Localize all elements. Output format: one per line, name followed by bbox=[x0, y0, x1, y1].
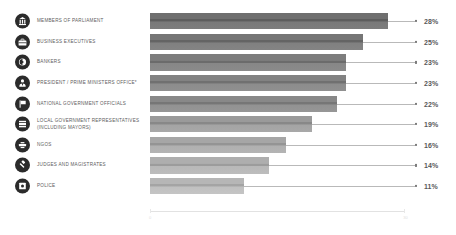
chart-row: POLICE 11% bbox=[0, 176, 456, 197]
leader-line bbox=[388, 21, 415, 22]
leader-dot bbox=[415, 82, 417, 84]
leader-dot bbox=[415, 164, 417, 166]
value-label: 22% bbox=[424, 100, 438, 107]
chart-row: NGOs 16% bbox=[0, 135, 456, 156]
category-label: PRESIDENT / PRIME MINISTERS OFFICE* bbox=[37, 80, 143, 86]
x-axis: 0 30 bbox=[150, 211, 405, 212]
bank-coin-icon bbox=[15, 55, 30, 70]
row-icon-cell bbox=[15, 117, 30, 132]
row-icon-cell bbox=[15, 179, 30, 194]
gavel-icon bbox=[15, 158, 30, 173]
leader-dot bbox=[415, 20, 417, 22]
briefcase-icon bbox=[15, 34, 30, 49]
bar-track bbox=[150, 11, 456, 32]
police-badge-icon bbox=[15, 179, 30, 194]
leader-line bbox=[363, 42, 416, 43]
bar-track bbox=[150, 135, 456, 156]
value-label: 11% bbox=[424, 183, 438, 190]
bar-track bbox=[150, 32, 456, 53]
leader-line bbox=[269, 165, 415, 166]
handshake-icon bbox=[15, 137, 30, 152]
leader-line bbox=[312, 124, 416, 125]
category-label: JUDGES AND MAGISTRATES bbox=[37, 162, 143, 168]
horizontal-bar-chart: MEMBERS OF PARLIAMENT 28% BUSINESS EXE bbox=[0, 0, 456, 235]
row-icon-cell bbox=[15, 34, 30, 49]
category-label: POLICE bbox=[37, 183, 143, 189]
bar bbox=[150, 34, 363, 50]
category-label: NATIONAL GOVERNMENT OFFICIALS bbox=[37, 100, 143, 106]
category-label: BANKERS bbox=[37, 59, 143, 65]
axis-tick-min bbox=[150, 209, 151, 213]
flag-icon bbox=[15, 96, 30, 111]
value-label: 19% bbox=[424, 121, 438, 128]
row-icon-cell bbox=[15, 96, 30, 111]
leader-dot bbox=[415, 123, 417, 125]
bar-track bbox=[150, 93, 456, 114]
leader-dot bbox=[415, 185, 417, 187]
chart-row: MEMBERS OF PARLIAMENT 28% bbox=[0, 11, 456, 32]
chart-row: PRESIDENT / PRIME MINISTERS OFFICE* 23% bbox=[0, 73, 456, 94]
axis-label-min: 0 bbox=[149, 215, 151, 220]
chart-row: BUSINESS EXECUTIVES 25% bbox=[0, 32, 456, 53]
row-icon-cell bbox=[15, 76, 30, 91]
parliament-icon bbox=[15, 14, 30, 29]
value-label: 23% bbox=[424, 59, 438, 66]
axis-tick-max bbox=[404, 209, 405, 213]
bar-track bbox=[150, 176, 456, 197]
leader-line bbox=[346, 62, 416, 63]
row-icon-cell bbox=[15, 14, 30, 29]
leader-dot bbox=[415, 41, 417, 43]
chart-row: NATIONAL GOVERNMENT OFFICIALS 22% bbox=[0, 93, 456, 114]
value-label: 25% bbox=[424, 38, 438, 45]
bar bbox=[150, 178, 244, 194]
category-label: LOCAL GOVERNMENT REPRESENTATIVES (INCLUD… bbox=[37, 118, 143, 131]
bar bbox=[150, 116, 312, 132]
leader-dot bbox=[415, 103, 417, 105]
person-tie-icon bbox=[15, 76, 30, 91]
chart-row: LOCAL GOVERNMENT REPRESENTATIVES (INCLUD… bbox=[0, 114, 456, 135]
value-label: 14% bbox=[424, 162, 438, 169]
row-icon-cell bbox=[15, 158, 30, 173]
bar bbox=[150, 137, 286, 153]
leader-line bbox=[286, 145, 415, 146]
bar-track bbox=[150, 52, 456, 73]
city-hall-icon bbox=[15, 117, 30, 132]
category-label: MEMBERS OF PARLIAMENT bbox=[37, 18, 143, 24]
leader-line bbox=[337, 104, 415, 105]
category-label: BUSINESS EXECUTIVES bbox=[37, 39, 143, 45]
bar bbox=[150, 54, 346, 70]
value-label: 28% bbox=[424, 18, 438, 25]
axis-label-max: 30 bbox=[403, 215, 408, 220]
leader-line bbox=[346, 83, 416, 84]
leader-dot bbox=[415, 61, 417, 63]
row-icon-cell bbox=[15, 137, 30, 152]
value-label: 16% bbox=[424, 141, 438, 148]
leader-dot bbox=[415, 144, 417, 146]
bar bbox=[150, 157, 269, 173]
bar-track bbox=[150, 155, 456, 176]
value-label: 23% bbox=[424, 80, 438, 87]
bar bbox=[150, 75, 346, 91]
bar bbox=[150, 13, 388, 29]
chart-rows: MEMBERS OF PARLIAMENT 28% BUSINESS EXE bbox=[0, 11, 456, 196]
row-icon-cell bbox=[15, 55, 30, 70]
leader-line bbox=[244, 186, 416, 187]
category-label: NGOs bbox=[37, 142, 143, 148]
chart-row: JUDGES AND MAGISTRATES 14% bbox=[0, 155, 456, 176]
chart-row: BANKERS 23% bbox=[0, 52, 456, 73]
bar-track bbox=[150, 114, 456, 135]
bar bbox=[150, 96, 337, 112]
bar-track bbox=[150, 73, 456, 94]
